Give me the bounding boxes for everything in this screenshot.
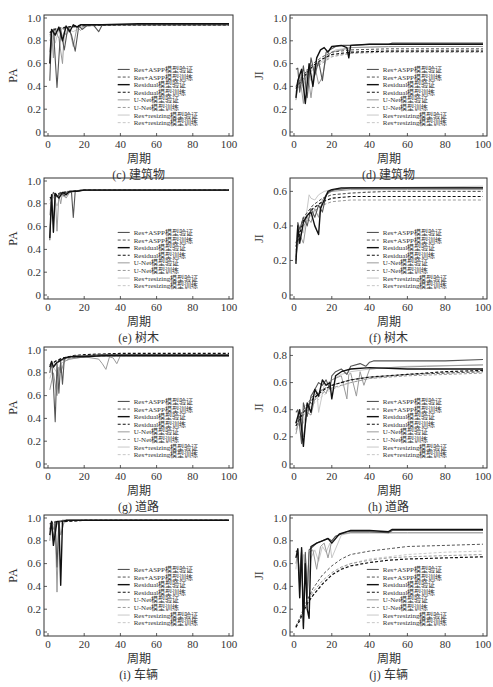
- y-tick-label: 1.0: [27, 512, 41, 524]
- x-axis-label: 周期: [377, 652, 401, 666]
- legend-label: Res+resizing模型训练: [134, 281, 199, 290]
- y-tick-label: 1.0: [273, 12, 287, 24]
- y-tick-label: 0.8: [273, 534, 287, 546]
- x-tick-label: 100: [475, 470, 492, 482]
- y-tick-label: 0.4: [27, 412, 41, 424]
- x-tick-label: 20: [326, 138, 338, 150]
- legend-label: Res+resizing模型训练: [383, 118, 448, 127]
- y-tick-label: 0.4: [273, 403, 287, 415]
- y-tick-label: 0.8: [27, 197, 41, 209]
- chart-panel-g: 02040608010000.20.40.60.81.0PA周期(g) 道路Re…: [6, 344, 238, 515]
- x-tick-label: 80: [187, 470, 199, 482]
- x-tick-label: 60: [151, 301, 163, 313]
- x-tick-label: 100: [221, 470, 238, 482]
- series-line: [50, 190, 229, 206]
- legend-label: Res+resizing模型训练: [383, 618, 448, 627]
- y-tick-label: 0.4: [27, 243, 41, 255]
- x-tick-label: 100: [475, 638, 492, 650]
- x-tick-label: 80: [440, 638, 452, 650]
- y-tick-label: 1.0: [27, 344, 41, 356]
- y-tick-label: 0.6: [27, 57, 41, 69]
- y-tick-label: 0.2: [273, 254, 287, 266]
- panel-caption: (h) 道路: [368, 499, 409, 514]
- y-tick-label: 0.2: [27, 103, 41, 115]
- x-tick-label: 100: [221, 301, 238, 313]
- chart-panel-d: 02040608010000.20.40.60.81.0JI周期(d) 建筑物R…: [252, 12, 492, 183]
- y-tick-label: 0.2: [27, 603, 41, 615]
- y-tick-label: 0.6: [27, 557, 41, 569]
- y-tick-label: 0.4: [27, 80, 41, 92]
- x-axis-label: 周期: [127, 152, 151, 166]
- x-tick-label: 20: [326, 638, 338, 650]
- legend-label: Res+resizing模型训练: [383, 450, 448, 459]
- x-tick-label: 20: [79, 638, 91, 650]
- y-tick-label: 0.8: [273, 34, 287, 46]
- series-line: [50, 356, 229, 367]
- chart-panel-h: 02040608010000.20.40.60.8JI周期(h) 道路Res+A…: [252, 347, 492, 514]
- y-tick-label: 0.4: [273, 80, 287, 92]
- y-tick-label: 0: [36, 126, 42, 138]
- y-tick-label: 0.2: [273, 430, 287, 442]
- legend-label: Res+resizing模型训练: [134, 618, 199, 627]
- x-tick-label: 60: [402, 470, 414, 482]
- x-tick-label: 100: [221, 638, 238, 650]
- x-tick-label: 20: [79, 470, 91, 482]
- y-tick-label: 0.8: [273, 349, 287, 361]
- series-line: [50, 190, 229, 231]
- x-tick-label: 0: [45, 138, 51, 150]
- y-tick-label: 1.0: [27, 175, 41, 187]
- y-tick-label: 0.8: [27, 34, 41, 46]
- y-tick-label: 0.6: [273, 376, 287, 388]
- legend: Res+ASPP模型验证Res+ASPP模型训练Residual模型验证Resi…: [367, 565, 448, 627]
- legend-label: Res+resizing模型训练: [134, 450, 199, 459]
- x-tick-label: 40: [364, 138, 376, 150]
- y-tick-label: 0: [282, 126, 288, 138]
- x-tick-label: 80: [187, 301, 199, 313]
- chart-panel-i: 02040608010000.20.40.60.81.0PA周期(i) 车辆Re…: [6, 512, 238, 683]
- y-axis-label: PA: [6, 231, 20, 246]
- series-line: [50, 356, 229, 396]
- x-tick-label: 100: [475, 138, 492, 150]
- x-tick-label: 60: [402, 301, 414, 313]
- y-tick-label: 1.0: [27, 12, 41, 24]
- chart-panel-c: 02040608010000.20.40.60.81.0PA周期(c) 建筑物R…: [6, 12, 238, 183]
- y-axis-label: JI: [252, 571, 266, 580]
- panel-caption: (i) 车辆: [119, 667, 157, 682]
- x-tick-label: 40: [115, 638, 127, 650]
- y-tick-label: 0: [282, 289, 288, 301]
- y-tick-label: 0.2: [273, 103, 287, 115]
- x-tick-label: 40: [364, 638, 376, 650]
- x-tick-label: 0: [45, 301, 51, 313]
- series-line: [50, 520, 229, 531]
- legend: Res+ASPP模型验证Res+ASPP模型训练Residual模型验证Resi…: [118, 565, 199, 627]
- x-tick-label: 80: [440, 470, 452, 482]
- x-axis-label: 周期: [127, 315, 151, 329]
- x-tick-label: 60: [151, 638, 163, 650]
- y-tick-label: 0.6: [273, 185, 287, 197]
- legend-label: Res+resizing模型训练: [134, 118, 199, 127]
- legend: Res+ASPP模型验证Res+ASPP模型训练Residual模型验证Resi…: [367, 65, 448, 127]
- x-tick-label: 40: [115, 470, 127, 482]
- y-tick-label: 0.8: [27, 534, 41, 546]
- legend: Res+ASPP模型验证Res+ASPP模型训练Residual模型验证Resi…: [118, 228, 199, 290]
- panel-caption: (c) 建筑物: [112, 167, 164, 182]
- y-tick-label: 0: [36, 289, 42, 301]
- y-axis-label: PA: [6, 68, 20, 83]
- x-axis-label: 周期: [127, 652, 151, 666]
- series-line: [50, 520, 229, 567]
- legend-label: Res+resizing模型训练: [383, 281, 448, 290]
- x-axis-label: 周期: [377, 152, 401, 166]
- y-axis-label: PA: [6, 568, 20, 583]
- x-tick-label: 40: [115, 138, 127, 150]
- chart-panel-j: 02040608010000.20.40.60.81.0JI周期(j) 车辆Re…: [252, 512, 492, 683]
- x-tick-label: 20: [326, 301, 338, 313]
- x-tick-label: 0: [291, 138, 297, 150]
- y-axis-label: JI: [252, 403, 266, 412]
- x-tick-label: 80: [187, 638, 199, 650]
- y-tick-label: 0: [282, 458, 288, 470]
- y-tick-label: 0.4: [273, 580, 287, 592]
- legend: Res+ASPP模型验证Res+ASPP模型训练Residual模型验证Resi…: [367, 397, 448, 459]
- legend: Res+ASPP模型验证Res+ASPP模型训练Residual模型验证Resi…: [118, 65, 199, 127]
- x-tick-label: 60: [402, 638, 414, 650]
- x-tick-label: 60: [402, 138, 414, 150]
